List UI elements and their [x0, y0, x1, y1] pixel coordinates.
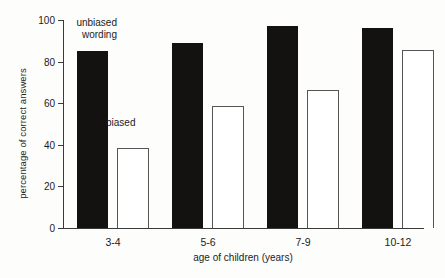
bar-unbiased-3	[362, 28, 393, 228]
bar-unbiased-2	[267, 26, 298, 228]
annotation-unbiased-wording: unbiased wording	[55, 17, 117, 40]
y-tick-mark	[58, 186, 63, 187]
x-tick-label-3: 10-12	[385, 236, 412, 248]
y-tick-label: 20	[44, 181, 55, 192]
x-axis-title: age of children (years)	[63, 252, 423, 263]
annotation-biased: biased	[106, 117, 135, 129]
bar-group-3	[358, 20, 438, 228]
x-tick-label-0: 3-4	[105, 236, 120, 248]
y-tick-label: 0	[49, 223, 55, 234]
x-tick-label-2: 7-9	[295, 236, 310, 248]
y-tick-mark	[58, 62, 63, 63]
bar-biased-2	[307, 90, 339, 228]
y-tick-mark	[58, 228, 63, 229]
bar-unbiased-1	[172, 43, 203, 228]
x-axis-line	[63, 228, 424, 229]
bar-unbiased-0	[77, 51, 108, 228]
bar-biased-0	[117, 148, 149, 228]
y-axis-line	[63, 20, 64, 229]
bar-group-1	[168, 20, 248, 228]
y-tick-label: 80	[44, 56, 55, 67]
y-axis-title: percentage of correct answers	[17, 34, 28, 234]
bar-biased-1	[212, 106, 244, 228]
bar-group-2	[263, 20, 343, 228]
bar-chart-figure: percentage of correct answers 0 20 40 60…	[0, 0, 445, 278]
y-tick-mark	[58, 103, 63, 104]
x-tick-label-1: 5-6	[200, 236, 215, 248]
y-tick-label: 40	[44, 139, 55, 150]
y-tick-label: 60	[44, 98, 55, 109]
bar-biased-3	[402, 50, 434, 228]
y-tick-label: 100	[38, 15, 55, 26]
y-tick-mark	[58, 145, 63, 146]
